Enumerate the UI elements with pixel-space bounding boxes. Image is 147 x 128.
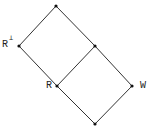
edge-top-rperp [19,6,56,46]
edge-mid-w [95,46,132,86]
edge-r-bottom [57,86,95,124]
node-r-perp [17,44,20,47]
node-w [130,84,133,87]
label-r-perp: R [2,40,8,50]
edge-mid-r [57,46,95,86]
lattice-diagram [0,0,147,128]
node-r [55,84,58,87]
node-mid [93,44,96,47]
node-top [54,4,57,7]
label-r: R [46,81,52,91]
node-bottom [93,122,96,125]
label-r-perp-superscript: ⊥ [9,35,13,42]
edge-w-bottom [95,86,132,124]
label-w: W [140,81,146,91]
edge-top-mid [56,6,95,46]
